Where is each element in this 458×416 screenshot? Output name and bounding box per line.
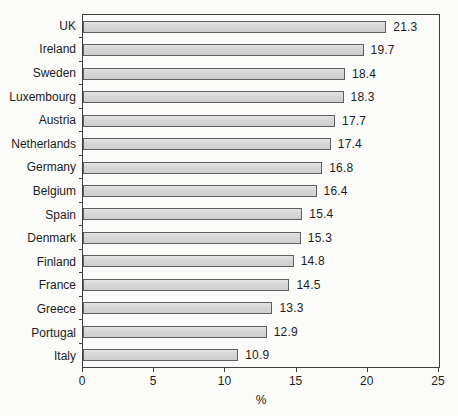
category-label: Netherlands xyxy=(0,132,76,156)
x-axis-tick-label: 20 xyxy=(360,374,373,388)
bar-value-label: 17.4 xyxy=(338,137,362,151)
bar-value-label: 14.5 xyxy=(296,278,320,292)
y-axis-tick xyxy=(79,319,83,320)
category-label: Greece xyxy=(0,297,76,321)
x-axis-tick-label: 15 xyxy=(289,374,302,388)
bar-row: 14.5 xyxy=(83,273,439,296)
bar-row: 19.7 xyxy=(83,38,439,61)
bar xyxy=(83,326,267,338)
y-axis-tick xyxy=(79,249,83,250)
bar-value-label: 15.3 xyxy=(308,231,332,245)
y-axis-tick xyxy=(79,108,83,109)
x-axis-tick xyxy=(367,368,368,372)
bar-row: 10.9 xyxy=(83,344,439,367)
bar-value-label: 10.9 xyxy=(245,348,269,362)
x-axis-tick xyxy=(438,368,439,372)
x-axis-tick xyxy=(224,368,225,372)
bar-row: 12.9 xyxy=(83,320,439,343)
bar-rows: 21.319.718.418.317.717.416.816.415.415.3… xyxy=(83,15,439,367)
x-axis-tick-label: 10 xyxy=(218,374,231,388)
y-axis-tick xyxy=(79,178,83,179)
category-label: Portugal xyxy=(0,321,76,345)
y-axis-tick xyxy=(79,131,83,132)
bar-row: 15.3 xyxy=(83,226,439,249)
bar xyxy=(83,208,302,220)
bar-row: 18.3 xyxy=(83,85,439,108)
category-axis-labels: UKIrelandSwedenLuxembourgAustriaNetherla… xyxy=(0,14,76,368)
bar-value-label: 16.4 xyxy=(324,184,348,198)
x-axis-tick-label: 5 xyxy=(150,374,157,388)
y-axis-tick xyxy=(79,343,83,344)
category-label: France xyxy=(0,274,76,298)
x-axis-tick xyxy=(82,368,83,372)
x-axis-tick xyxy=(153,368,154,372)
bar-value-label: 14.8 xyxy=(301,254,325,268)
category-label: Luxembourg xyxy=(0,85,76,109)
category-label: Spain xyxy=(0,203,76,227)
x-axis-tick xyxy=(296,368,297,372)
bar-row: 21.3 xyxy=(83,15,439,38)
bar-value-label: 17.7 xyxy=(342,114,366,128)
bar-value-label: 18.4 xyxy=(352,67,376,81)
category-label: Ireland xyxy=(0,38,76,62)
bar xyxy=(83,115,335,127)
bar xyxy=(83,91,344,103)
bar xyxy=(83,232,301,244)
bar-row: 14.8 xyxy=(83,250,439,273)
y-axis-tick xyxy=(79,155,83,156)
y-axis-tick xyxy=(79,37,83,38)
x-axis-tick-label: 25 xyxy=(431,374,444,388)
bar xyxy=(83,44,364,56)
category-label: UK xyxy=(0,14,76,38)
y-axis-tick xyxy=(79,296,83,297)
bar-row: 16.4 xyxy=(83,179,439,202)
y-axis-tick xyxy=(79,61,83,62)
bar-value-label: 13.3 xyxy=(279,301,303,315)
category-label: Finland xyxy=(0,250,76,274)
category-label: Germany xyxy=(0,156,76,180)
bar xyxy=(83,255,294,267)
bar-row: 17.4 xyxy=(83,132,439,155)
bar-row: 18.4 xyxy=(83,62,439,85)
y-axis-tick xyxy=(79,202,83,203)
bar-value-label: 15.4 xyxy=(309,207,333,221)
bar xyxy=(83,185,317,197)
y-axis-tick xyxy=(79,272,83,273)
category-label: Belgium xyxy=(0,179,76,203)
category-label: Sweden xyxy=(0,61,76,85)
x-axis-title: % xyxy=(256,393,267,407)
bar xyxy=(83,279,289,291)
bar-row: 17.7 xyxy=(83,109,439,132)
bar-value-label: 21.3 xyxy=(393,20,417,34)
bar-row: 16.8 xyxy=(83,156,439,179)
category-label: Austria xyxy=(0,108,76,132)
bar-value-label: 12.9 xyxy=(274,325,298,339)
y-axis-tick xyxy=(79,225,83,226)
bar xyxy=(83,349,238,361)
bar xyxy=(83,138,331,150)
bar xyxy=(83,302,272,314)
x-axis-tick-label: 0 xyxy=(79,374,86,388)
bar-value-label: 19.7 xyxy=(371,43,395,57)
plot-area: 21.319.718.418.317.717.416.816.415.415.3… xyxy=(82,14,440,368)
bar-value-label: 18.3 xyxy=(351,90,375,104)
bar xyxy=(83,21,386,33)
y-axis-tick xyxy=(79,84,83,85)
category-label: Italy xyxy=(0,344,76,368)
category-label: Denmark xyxy=(0,226,76,250)
bar-row: 13.3 xyxy=(83,297,439,320)
bar-chart-figure: UKIrelandSwedenLuxembourgAustriaNetherla… xyxy=(0,0,458,416)
bar-value-label: 16.8 xyxy=(329,161,353,175)
bar xyxy=(83,68,345,80)
bar xyxy=(83,162,322,174)
bar-row: 15.4 xyxy=(83,203,439,226)
